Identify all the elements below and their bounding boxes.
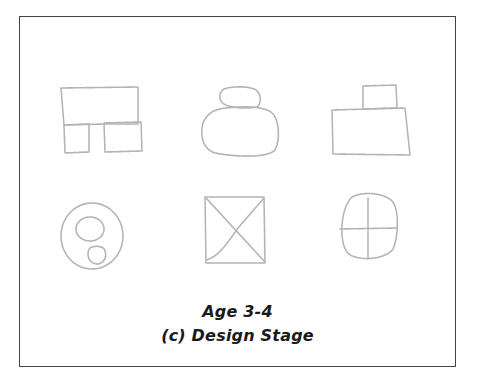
- drawing-circle-with-inner-circles: [61, 203, 123, 269]
- drawing-square-with-x: [205, 197, 265, 263]
- drawing-box-on-rectangle: [332, 85, 410, 155]
- caption-age: Age 3-4: [19, 302, 456, 322]
- drawing-circle-with-cross: [340, 194, 397, 259]
- caption-stage: (c) Design Stage: [19, 326, 456, 346]
- drawing-oval-stack: [202, 87, 279, 156]
- drawing-rectangle-over-two-boxes: [61, 87, 142, 153]
